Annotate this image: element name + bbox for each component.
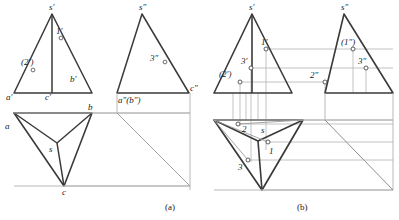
top-view-b-inner-edges — [214, 120, 303, 190]
label-b-front-point-2: (2′) — [219, 70, 231, 79]
label-b-side-point-2: 2″ — [310, 71, 318, 80]
point-marker-3pp-b — [364, 66, 368, 70]
miter-line-b — [325, 120, 393, 190]
panel-a-reference-lines — [14, 93, 190, 190]
label-b-top-interior-s: s — [261, 126, 265, 135]
label-a-front-apex: s′ — [49, 3, 54, 12]
label-b-top-point-3: 3 — [238, 163, 243, 172]
caption-a: (a) — [165, 203, 175, 212]
point-marker-3-b — [246, 158, 250, 162]
label-a-side-base-left: a″(b″) — [118, 96, 141, 105]
point-marker-2-b — [236, 122, 240, 126]
panel-b-reference-lines — [214, 93, 393, 190]
front-view-b-outline — [214, 14, 292, 93]
panel-b-projection-lines — [233, 49, 393, 162]
label-a-top-vertex-b: b — [88, 103, 93, 112]
label-a-top-interior-s: s — [49, 145, 53, 154]
point-marker-2pp-b — [323, 80, 327, 84]
figure-root: s′ a′ c′ b′ 1′ (2′) s″ a″(b″) c″ 3″ a b … — [0, 0, 399, 220]
label-a-side-apex: s″ — [139, 3, 146, 12]
point-marker-1pp-b — [351, 47, 355, 51]
label-b-front-point-3: 3′ — [241, 57, 247, 66]
point-marker-1-b — [266, 140, 270, 144]
panel-a-geometry — [14, 14, 190, 190]
label-a-top-vertex-a: a — [5, 122, 10, 131]
front-view-a-outline — [14, 14, 92, 93]
caption-b: (b) — [297, 203, 308, 212]
label-a-front-base-right: b′ — [70, 75, 76, 84]
label-b-side-point-3: 3″ — [358, 57, 366, 66]
miter-line-a — [117, 113, 190, 186]
side-view-b-outline — [325, 14, 393, 93]
top-view-a-inner-edges — [14, 113, 92, 186]
point-marker-2p-a — [31, 68, 35, 72]
label-b-front-point-1: 1′ — [261, 38, 267, 47]
label-b-front-apex: s′ — [249, 3, 254, 12]
label-a-front-base-left: a′ — [6, 93, 12, 102]
label-b-side-apex: s″ — [341, 3, 348, 12]
label-a-side-base-right: c″ — [190, 84, 198, 93]
label-a-front-base-mid: c′ — [45, 93, 51, 102]
label-a-side-point-3: 3″ — [150, 54, 158, 63]
label-b-top-point-1: 1 — [269, 147, 274, 156]
label-b-side-point-1: (1″) — [341, 38, 355, 47]
label-a-front-point-1: 1′ — [56, 27, 62, 36]
label-a-front-point-2: (2′) — [21, 58, 33, 67]
point-marker-1p-b — [264, 47, 268, 51]
point-marker-3p-b — [249, 66, 253, 70]
point-marker-2p-b — [238, 80, 242, 84]
label-a-top-vertex-c: c — [62, 188, 66, 197]
label-b-top-point-2: 2 — [242, 125, 247, 134]
point-marker-1p-a — [59, 36, 63, 40]
point-marker-3pp-a — [163, 60, 167, 64]
